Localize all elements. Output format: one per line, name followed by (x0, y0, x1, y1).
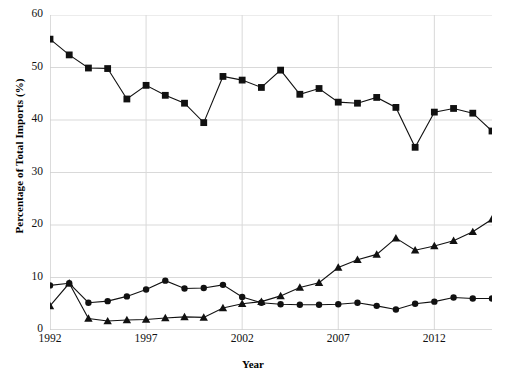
chart-svg (50, 15, 492, 330)
marker-circle (316, 302, 322, 308)
series-triangles (50, 215, 492, 324)
y-tick-label: 50 (0, 61, 43, 73)
marker-square (354, 100, 361, 107)
marker-circle (85, 300, 91, 306)
marker-triangle (276, 292, 284, 299)
marker-square (104, 65, 111, 72)
marker-circle (50, 282, 53, 288)
y-tick-label: 20 (0, 218, 43, 230)
marker-square (181, 100, 188, 107)
marker-triangle (315, 279, 323, 286)
marker-square (85, 65, 92, 72)
marker-circle (335, 301, 341, 307)
marker-circle (412, 301, 418, 307)
marker-circle (104, 298, 110, 304)
marker-square (393, 104, 400, 111)
marker-circle (201, 285, 207, 291)
marker-triangle (392, 234, 400, 241)
series-circles-line (50, 281, 492, 310)
x-tick-label: 2012 (404, 333, 464, 345)
marker-square (143, 82, 150, 89)
marker-square (200, 119, 207, 126)
y-tick-label: 40 (0, 113, 43, 125)
marker-circle (431, 298, 437, 304)
series-squares (50, 36, 492, 151)
marker-circle (354, 300, 360, 306)
series-squares-line (50, 39, 492, 147)
marker-square (162, 92, 169, 99)
marker-square (123, 96, 130, 103)
marker-square (258, 84, 265, 91)
marker-circle (489, 295, 492, 301)
y-tick-label: 60 (0, 8, 43, 20)
marker-square (469, 110, 476, 117)
marker-square (220, 73, 227, 80)
marker-circle (220, 282, 226, 288)
series-triangles-line (50, 219, 492, 321)
y-axis-title: Percentage of Total Imports (%) (13, 41, 25, 271)
marker-square (316, 85, 323, 92)
marker-square (66, 52, 73, 59)
x-tick-label: 1992 (20, 333, 80, 345)
y-tick-label: 10 (0, 271, 43, 283)
x-tick-label: 2002 (212, 333, 272, 345)
plot-area (50, 15, 492, 330)
y-tick-label: 30 (0, 166, 43, 178)
marker-circle (181, 285, 187, 291)
marker-circle (374, 303, 380, 309)
marker-triangle (488, 215, 492, 222)
x-axis-title: Year (0, 358, 506, 370)
marker-triangle (469, 228, 477, 235)
marker-circle (277, 301, 283, 307)
marker-circle (470, 295, 476, 301)
marker-circle (450, 294, 456, 300)
marker-square (412, 144, 419, 151)
marker-triangle (449, 237, 457, 244)
marker-square (296, 91, 303, 98)
marker-square (373, 94, 380, 101)
marker-circle (393, 306, 399, 312)
marker-square (335, 99, 342, 106)
x-tick-label: 2007 (308, 333, 368, 345)
marker-square (239, 77, 246, 84)
marker-circle (162, 277, 168, 283)
x-tick-label: 1997 (116, 333, 176, 345)
marker-circle (297, 302, 303, 308)
marker-triangle (84, 314, 92, 321)
marker-square (50, 36, 53, 43)
marker-circle (124, 293, 130, 299)
chart-container: Percentage of Total Imports (%) Year 010… (0, 0, 506, 383)
marker-square (489, 128, 492, 135)
series-circles (50, 277, 492, 312)
marker-square (450, 105, 457, 112)
marker-circle (143, 286, 149, 292)
marker-square (277, 67, 284, 74)
marker-triangle (334, 263, 342, 270)
marker-circle (239, 294, 245, 300)
marker-square (431, 109, 438, 116)
